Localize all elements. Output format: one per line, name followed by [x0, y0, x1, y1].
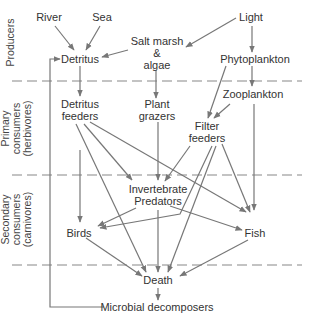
node-line: feeders: [61, 110, 99, 122]
node-line: Filter: [189, 120, 226, 132]
node-birds: Birds: [66, 227, 91, 239]
node-salt-marsh-algae: Salt marsh & algae: [131, 35, 184, 71]
node-detritus: Detritus: [61, 53, 99, 65]
node-line: &: [131, 47, 184, 59]
node-fish: Fish: [245, 227, 266, 239]
node-line: algae: [131, 59, 184, 71]
node-microbial-decomposers: Microbial decomposers: [100, 301, 213, 313]
node-sea: Sea: [92, 11, 112, 23]
node-light: Light: [239, 11, 263, 23]
node-phytoplankton: Phytoplankton: [220, 53, 290, 65]
food-web-diagram: Producers Primary consumers (herbivores)…: [0, 0, 309, 318]
node-filter-feeders: Filter feeders: [189, 120, 226, 144]
node-zooplankton: Zooplankton: [223, 88, 284, 100]
level-label-line: Producers: [5, 15, 16, 71]
node-line: grazers: [139, 110, 176, 122]
node-line: Invertebrate: [129, 183, 188, 195]
node-plant-grazers: Plant grazers: [139, 98, 176, 122]
level-label-primary-consumers: Primary consumers (herbivores): [0, 97, 33, 161]
level-label-secondary-consumers: Secondary consumers (carnivores): [0, 188, 33, 252]
node-invertebrate-predators: Invertebrate Predators: [129, 183, 188, 207]
node-line: Predators: [129, 195, 188, 207]
level-label-line: (herbivores): [22, 97, 33, 161]
node-detritus-feeders: Detritus feeders: [61, 98, 99, 122]
node-line: Detritus: [61, 98, 99, 110]
level-label-producers: Producers: [5, 15, 16, 71]
node-line: feeders: [189, 132, 226, 144]
node-line: Salt marsh: [131, 35, 184, 47]
level-label-line: (carnivores): [22, 188, 33, 252]
node-death: Death: [143, 274, 172, 286]
node-line: Plant: [139, 98, 176, 110]
node-river: River: [36, 11, 62, 23]
